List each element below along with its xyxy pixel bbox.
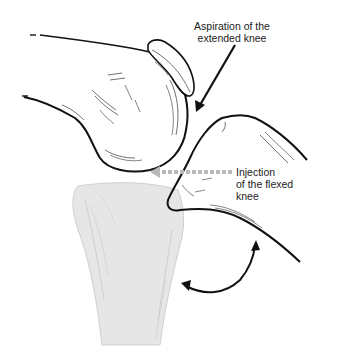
flexion-arrow-icon [181, 240, 260, 292]
injection-arrow-icon [150, 166, 232, 178]
aspiration-label-line1: Aspiration of the [190, 20, 274, 32]
aspiration-label-line2: extended knee [190, 32, 274, 44]
injection-label-line3: knee [236, 190, 326, 202]
tibia-bone [73, 183, 184, 345]
aspiration-arrow-icon [195, 45, 235, 112]
injection-label-line1: Injection [236, 166, 326, 178]
aspiration-label: Aspiration of the extended knee [190, 20, 274, 44]
patella-bone [148, 40, 194, 96]
injection-label-line2: of the flexed [236, 178, 326, 190]
injection-label: Injection of the flexed knee [236, 166, 326, 202]
